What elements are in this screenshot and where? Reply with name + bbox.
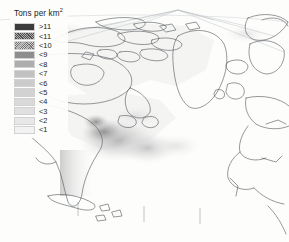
legend-row: <7 <box>14 69 66 78</box>
legend-label: <2 <box>39 116 47 125</box>
legend-row: <11 <box>14 31 66 40</box>
legend-swatch <box>14 117 35 125</box>
legend-swatch <box>14 51 35 59</box>
legend-swatch <box>14 79 35 87</box>
legend-row: <6 <box>14 78 66 87</box>
legend-label: <5 <box>39 88 47 97</box>
legend-row: >11 <box>14 22 66 31</box>
legend-swatch <box>14 98 35 106</box>
legend-swatch <box>14 70 35 78</box>
map-figure: Tons per km2 >11 <11 <10 <9 <8 <7 <6 <box>0 0 289 242</box>
legend-label: >11 <box>39 22 51 31</box>
legend-label: <9 <box>39 50 47 59</box>
legend-swatch <box>14 126 35 134</box>
legend-swatch <box>14 23 35 31</box>
legend-swatch <box>14 60 35 68</box>
legend-row: <8 <box>14 60 66 69</box>
legend-label: <6 <box>39 79 47 88</box>
legend-label: <3 <box>39 107 47 116</box>
legend-title-text: Tons per km <box>14 9 60 18</box>
legend-row: <3 <box>14 107 66 116</box>
legend-label: <8 <box>39 60 47 69</box>
legend-label: <4 <box>39 97 47 106</box>
map-legend: Tons per km2 >11 <11 <10 <9 <8 <7 <6 <box>10 7 68 138</box>
legend-label: <11 <box>39 32 51 41</box>
legend-title: Tons per km2 <box>14 9 66 19</box>
legend-label: <1 <box>39 125 47 134</box>
legend-row: <1 <box>14 125 66 134</box>
legend-row: <5 <box>14 88 66 97</box>
legend-row: <2 <box>14 116 66 125</box>
legend-label: <7 <box>39 69 47 78</box>
legend-title-superscript: 2 <box>60 7 63 13</box>
legend-row: <9 <box>14 50 66 59</box>
legend-row: <4 <box>14 97 66 106</box>
legend-label: <10 <box>39 41 52 50</box>
legend-swatch <box>14 41 35 49</box>
legend-swatch <box>14 107 35 115</box>
legend-swatch <box>14 88 35 96</box>
legend-row: <10 <box>14 41 66 50</box>
legend-swatch <box>14 32 35 40</box>
